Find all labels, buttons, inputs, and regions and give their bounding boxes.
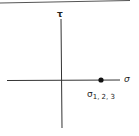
tau-axis [61,19,62,128]
sigma-axis-label: σ [124,75,130,84]
diagram-canvas [0,0,139,136]
tau-axis-label: τ [57,10,63,19]
stress-point-dot [98,77,103,82]
stress-point-label-subscript: 1, 2, 3 [93,93,115,101]
stress-point-label: σ1, 2, 3 [87,90,115,101]
top-border-line [0,1,130,4]
